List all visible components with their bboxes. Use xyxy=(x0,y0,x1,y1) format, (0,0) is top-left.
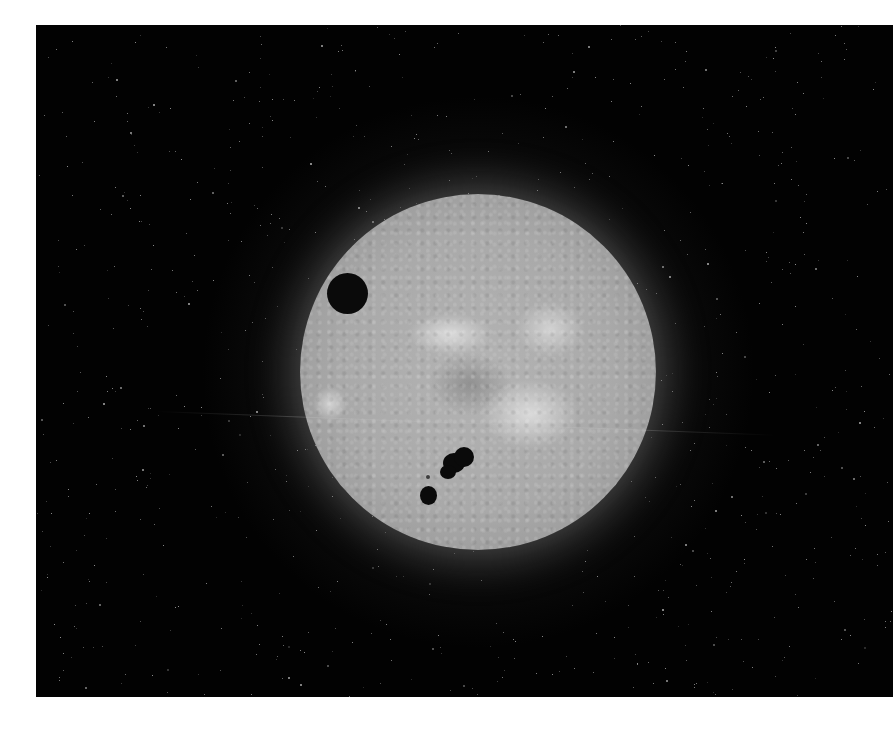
transiting-planet xyxy=(327,273,368,314)
sunspot-small xyxy=(420,486,437,505)
sunspot-large-lobe xyxy=(440,465,456,479)
sunspot-large-lobe xyxy=(454,447,474,467)
sunspot-tiny xyxy=(426,475,430,479)
space-image xyxy=(36,25,893,697)
limb-darkening xyxy=(300,194,656,550)
sun-disc xyxy=(300,194,656,550)
